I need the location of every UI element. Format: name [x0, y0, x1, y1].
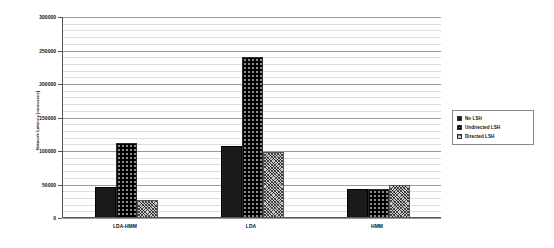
y-axis-tick-mark: [58, 218, 62, 219]
x-axis-line: [63, 217, 441, 218]
gridline-major: [63, 218, 441, 219]
y-axis-tick-label: 50000: [14, 182, 56, 188]
bar: [389, 185, 410, 219]
legend-swatch-icon: [457, 134, 462, 139]
legend-item-label: Directed LSH: [465, 134, 494, 139]
y-axis-tick-label: 200000: [14, 81, 56, 87]
bar: [221, 146, 242, 218]
y-axis-title: Network Latency [nanosecs]: [35, 61, 40, 181]
legend-swatch-icon: [457, 116, 462, 121]
x-axis-tick-label: LDA-HMM: [62, 223, 188, 229]
legend-item-label: No LSH: [465, 116, 482, 121]
legend-item-label: Undirected LSH: [465, 125, 500, 130]
bar-series-container: [63, 17, 441, 218]
bar-chart: Network Latency [nanosecs] 0500001000001…: [0, 0, 554, 248]
y-axis-tick-label: 100000: [14, 148, 56, 154]
legend-item-undirected-lsh: Undirected LSH: [457, 123, 530, 132]
bar: [95, 187, 116, 218]
bar-group: [63, 17, 189, 218]
bar: [347, 189, 368, 218]
y-axis-tick-label: 300000: [14, 14, 56, 20]
y-axis-tick-label: 0: [14, 215, 56, 221]
plot-area: [62, 17, 441, 218]
bar: [368, 189, 389, 218]
legend-item-no-lsh: No LSH: [457, 114, 530, 123]
legend-item-directed-lsh: Directed LSH: [457, 132, 530, 141]
bar-group: [189, 17, 315, 218]
x-axis-tick-label: LDA: [188, 223, 314, 229]
bar: [116, 143, 137, 218]
bar: [137, 200, 158, 218]
legend-swatch-icon: [457, 125, 462, 130]
bar: [263, 152, 284, 218]
bar: [242, 57, 263, 218]
bar-group: [315, 17, 441, 218]
y-axis-tick-label: 150000: [14, 115, 56, 121]
chart-legend: No LSH Undirected LSH Directed LSH: [452, 110, 534, 145]
y-axis-tick-label: 250000: [14, 48, 56, 54]
x-axis-tick-label: HMM: [314, 223, 440, 229]
